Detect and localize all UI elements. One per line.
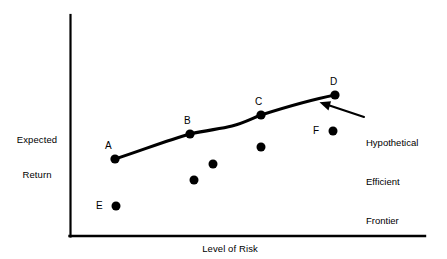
data-point-a	[110, 154, 119, 163]
x-axis-label: Level of Risk	[170, 243, 290, 255]
y-axis-label-line2: Return	[8, 169, 66, 181]
data-point-unlabeled-1	[190, 176, 199, 185]
frontier-callout-line3: Frontier	[366, 214, 418, 227]
frontier-callout-text: Hypothetical Efficient Frontier	[366, 110, 418, 253]
point-label-b: B	[184, 115, 191, 128]
point-label-f: F	[313, 125, 319, 138]
data-point-f	[329, 127, 338, 136]
data-point-e	[112, 202, 121, 211]
efficient-frontier-chart: Expected Return Level of Risk A B C D E …	[0, 0, 447, 259]
point-label-d: D	[330, 76, 337, 89]
point-label-a: A	[105, 140, 112, 153]
data-point-unlabeled-3	[257, 143, 266, 152]
data-point-c	[256, 110, 265, 119]
efficient-frontier-curve	[115, 95, 335, 159]
data-point-unlabeled-2	[209, 160, 218, 169]
data-point-b	[185, 129, 194, 138]
point-label-c: C	[255, 96, 262, 109]
point-label-e: E	[96, 200, 103, 213]
frontier-callout-line2: Efficient	[366, 175, 418, 188]
callout-arrowhead	[320, 101, 332, 110]
data-point-d	[330, 90, 339, 99]
callout-arrow	[320, 101, 365, 117]
y-axis-label-line1: Expected	[8, 134, 66, 146]
frontier-callout-line1: Hypothetical	[366, 136, 418, 149]
inefficient-points	[112, 127, 338, 211]
callout-leader-line	[325, 104, 364, 117]
y-axis-label: Expected Return	[8, 110, 66, 205]
